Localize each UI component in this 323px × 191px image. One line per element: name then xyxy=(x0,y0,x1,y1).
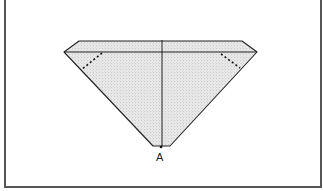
point-a-marker xyxy=(160,146,163,149)
point-a-label: A xyxy=(156,152,163,163)
gem-body xyxy=(64,41,257,146)
